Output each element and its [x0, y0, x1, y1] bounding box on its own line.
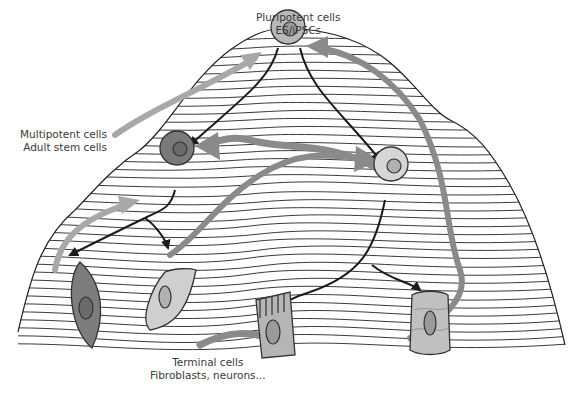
epigenetic-landscape-diagram: Pluripotent cells ES/iPSCs Multipotent c… [0, 0, 581, 394]
pluripotent-label-line1: Pluripotent cells [256, 11, 340, 24]
multipotent-label-line2: Adult stem cells [20, 141, 107, 154]
terminal-label: Terminal cells Fibroblasts, neurons... [150, 356, 266, 382]
pluripotent-label-line2: ES/iPSCs [256, 24, 340, 37]
terminal-label-line1: Terminal cells [150, 356, 266, 369]
intermediate-cell-icon [374, 147, 408, 181]
ciliated-cell-icon [256, 292, 295, 358]
terminal-label-line2: Fibroblasts, neurons... [150, 369, 266, 382]
landscape-canvas [0, 0, 581, 394]
multipotent-cell-icon [160, 131, 194, 165]
multipotent-label: Multipotent cells Adult stem cells [20, 128, 107, 154]
pluripotent-label: Pluripotent cells ES/iPSCs [256, 11, 340, 37]
multipotent-label-line1: Multipotent cells [20, 128, 107, 141]
muscle-cell-icon [410, 291, 450, 354]
